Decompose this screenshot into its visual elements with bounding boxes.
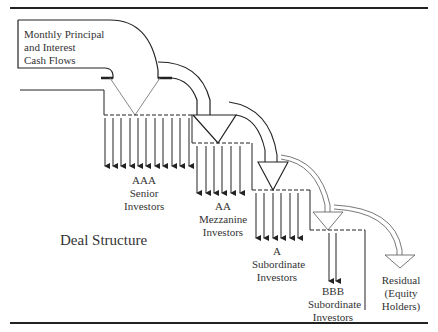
bbb-payout-arrows bbox=[329, 233, 336, 281]
aaa-funnel bbox=[110, 78, 160, 115]
diagram-title: Deal Structure bbox=[60, 232, 147, 249]
residual-line-2: (Equity bbox=[376, 287, 426, 300]
arrow-aaa-to-aa bbox=[158, 62, 236, 143]
residual-line-3: Holders) bbox=[376, 300, 426, 313]
arrow-bbb-to-residual bbox=[334, 205, 415, 268]
tranche-label-a: A Subordinate Investors bbox=[252, 245, 302, 284]
arrow-aa-to-a bbox=[229, 102, 288, 190]
tranche-label-bbb: BBB Subordinate Investors bbox=[308, 285, 358, 324]
tranche-class: Senior bbox=[124, 187, 164, 200]
source-line-1: Monthly Principal bbox=[24, 28, 104, 41]
tranche-label-aa: AA Mezzanine Investors bbox=[198, 200, 248, 239]
residual-label: Residual (Equity Holders) bbox=[376, 274, 426, 313]
tranche-holder: Investors bbox=[198, 226, 248, 239]
tranche-class: Mezzanine bbox=[198, 213, 248, 226]
tranche-class: Subordinate bbox=[252, 258, 302, 271]
tranche-rating: AAA bbox=[124, 174, 164, 187]
source-line-2: and Interest bbox=[24, 41, 104, 54]
tranche-holder: Investors bbox=[124, 200, 164, 213]
source-line-3: Cash Flows bbox=[24, 54, 104, 67]
aa-payout-arrows bbox=[197, 146, 240, 193]
aaa-step bbox=[20, 90, 192, 115]
residual-line-1: Residual bbox=[376, 274, 426, 287]
a-payout-arrows bbox=[256, 193, 298, 238]
tranche-holder: Investors bbox=[308, 311, 358, 324]
tranche-class: Subordinate bbox=[308, 298, 358, 311]
tranche-rating: BBB bbox=[308, 285, 358, 298]
tranche-label-aaa: AAA Senior Investors bbox=[124, 174, 164, 213]
tranche-holder: Investors bbox=[252, 271, 302, 284]
tranche-rating: AA bbox=[198, 200, 248, 213]
source-label: Monthly Principal and Interest Cash Flow… bbox=[24, 28, 104, 67]
tranche-rating: A bbox=[252, 245, 302, 258]
aaa-payout-arrows bbox=[105, 118, 189, 166]
